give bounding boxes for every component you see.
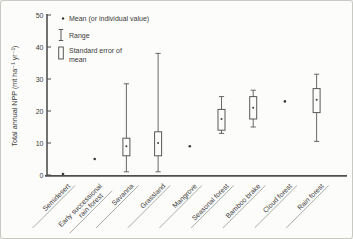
- category-leader-line: [286, 185, 328, 227]
- mean-dot: [62, 173, 65, 176]
- category-label: Rain forest: [296, 182, 325, 211]
- y-tick-label: 30: [36, 76, 44, 83]
- y-axis-title: Total annual NPP (mt ha⁻¹ yr⁻¹): [10, 46, 19, 147]
- category-label: Mangrove: [171, 182, 199, 210]
- category-label: Bamboo brake: [224, 182, 261, 219]
- y-tick-label: 50: [36, 12, 44, 19]
- mean-dot: [125, 145, 127, 147]
- mean-dot: [189, 145, 192, 148]
- category-leader-line: [191, 185, 233, 227]
- category-label: Cloud forest: [261, 182, 293, 214]
- legend-label-range: Range: [69, 32, 90, 40]
- figure-frame: 01020304050Total annual NPP (mt ha⁻¹ yr⁻…: [0, 0, 353, 239]
- category-leader-line: [160, 185, 202, 227]
- mean-dot: [284, 100, 287, 103]
- chart-canvas: 01020304050Total annual NPP (mt ha⁻¹ yr⁻…: [1, 1, 352, 238]
- category-label: Semidesert: [41, 182, 71, 212]
- legend-label-se-line2: mean: [69, 56, 87, 63]
- category-leader-line: [223, 185, 265, 227]
- mean-dot: [157, 142, 159, 144]
- mean-dot: [221, 118, 223, 120]
- y-tick-label: 0: [40, 172, 44, 179]
- y-tick-label: 10: [36, 140, 44, 147]
- category-label: Savanna: [110, 182, 135, 207]
- category-leader-line: [255, 185, 297, 227]
- category-leader-line: [96, 185, 138, 227]
- y-tick-label: 20: [36, 108, 44, 115]
- mean-dot: [93, 158, 96, 161]
- mean-dot: [252, 107, 254, 109]
- legend-mean-dot-icon: [62, 17, 64, 19]
- legend-se-box-icon: [59, 47, 64, 59]
- legend-label-mean: Mean (or individual value): [69, 15, 149, 23]
- category-leader-line: [33, 185, 75, 227]
- category-label: Grassland: [139, 182, 167, 210]
- legend-label-se: Standard error of: [69, 47, 122, 54]
- mean-dot: [316, 99, 318, 101]
- y-tick-label: 40: [36, 44, 44, 51]
- category-leader-line: [128, 185, 170, 227]
